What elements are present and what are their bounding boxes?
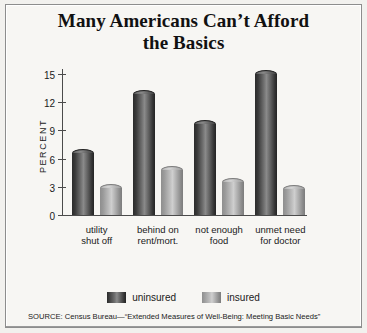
- bar-body: [133, 94, 155, 215]
- bar-insured: [100, 184, 122, 215]
- bar-group: [72, 74, 122, 215]
- y-tick: [58, 74, 66, 75]
- x-axis-label-line: food: [195, 235, 243, 246]
- legend-item-uninsured: uninsured: [107, 292, 176, 303]
- y-tick: [58, 159, 66, 160]
- bar-uninsured: [72, 149, 94, 215]
- y-tick-label: 9: [49, 126, 55, 137]
- x-axis-label-line: utility: [81, 224, 112, 235]
- bar-insured: [283, 185, 305, 215]
- y-tick: [58, 215, 66, 216]
- bar-body: [161, 170, 183, 215]
- x-axis-label-line: unmet need: [255, 224, 305, 235]
- x-axis-line: [62, 215, 307, 216]
- x-axis-label-line: shut off: [81, 235, 112, 246]
- bar-body: [100, 188, 122, 215]
- legend-item-insured: insured: [202, 292, 260, 303]
- chart-legend: uninsured insured: [0, 292, 367, 303]
- legend-swatch-insured: [202, 292, 221, 303]
- bar-body: [255, 74, 277, 215]
- source-divider: [6, 326, 361, 327]
- y-tick-label: 15: [44, 70, 55, 81]
- chart-title: Many Americans Can’t Afford the Basics: [0, 10, 367, 54]
- x-axis-label: not enoughfood: [195, 224, 243, 246]
- y-tick-label: 6: [49, 154, 55, 165]
- y-tick-label: 3: [49, 182, 55, 193]
- source-note-container: SOURCE: Census Bureau—“Extended Measures…: [6, 312, 361, 321]
- bar-insured: [161, 166, 183, 215]
- y-tick-label: 12: [44, 98, 55, 109]
- x-axis-label: utilityshut off: [81, 224, 112, 246]
- chart-figure: Many Americans Can’t Afford the Basics P…: [0, 0, 367, 333]
- bar-uninsured: [133, 90, 155, 215]
- bar-uninsured: [255, 70, 277, 215]
- x-axis-label-line: for doctor: [255, 235, 305, 246]
- bar-group: [133, 74, 183, 215]
- bar-body: [222, 182, 244, 215]
- y-axis-line: [62, 69, 63, 216]
- source-note: SOURCE: Census Bureau—“Extended Measures…: [6, 312, 361, 321]
- y-tick: [58, 187, 66, 188]
- bar-body: [194, 124, 216, 215]
- legend-label-uninsured: uninsured: [132, 292, 176, 303]
- legend-label-insured: insured: [227, 292, 260, 303]
- chart-title-line-1: Many Americans Can’t Afford: [58, 10, 309, 31]
- x-axis-label-line: not enough: [195, 224, 243, 235]
- plot-area: PERCENT 03691215 utilityshut offbehind o…: [62, 75, 307, 216]
- y-tick-label: 0: [49, 211, 55, 222]
- x-axis-label-line: behind on: [137, 224, 179, 235]
- bar-body: [283, 189, 305, 215]
- bar-uninsured: [194, 120, 216, 215]
- x-axis-label: unmet needfor doctor: [255, 224, 305, 246]
- y-axis-title: PERCENT: [38, 118, 48, 172]
- bar-insured: [222, 178, 244, 215]
- y-tick: [58, 130, 66, 131]
- chart-title-line-2: the Basics: [0, 32, 367, 54]
- y-tick: [58, 102, 66, 103]
- x-axis-label-line: rent/mort.: [137, 235, 179, 246]
- bar-group: [194, 74, 244, 215]
- legend-swatch-uninsured: [107, 292, 126, 303]
- x-axis-label: behind onrent/mort.: [137, 224, 179, 246]
- bar-body: [72, 153, 94, 215]
- bar-group: [255, 74, 305, 215]
